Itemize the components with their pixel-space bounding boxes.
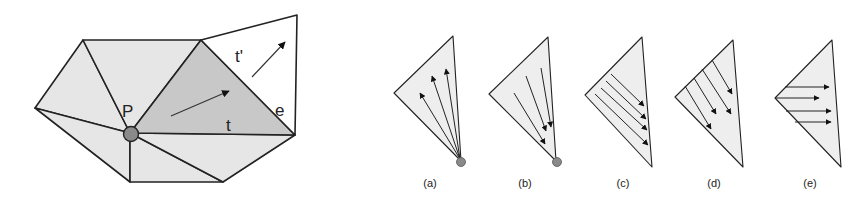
label-edge-e: e [275, 101, 284, 120]
case-c-triangle [585, 37, 652, 167]
case-e-triangle [775, 40, 841, 167]
caption-d: (d) [707, 177, 720, 189]
case-b-vertex-dot [553, 158, 562, 167]
label-triangle-t-prime: t' [235, 47, 243, 66]
caption-e: (e) [803, 177, 816, 189]
figure-canvas: P t t' e [0, 0, 865, 210]
caption-b: (b) [518, 177, 531, 189]
label-vertex-p: P [122, 102, 133, 121]
label-triangle-t: t [226, 116, 231, 135]
vertex-p-dot [124, 127, 139, 142]
triangle-fan-diagram [35, 15, 297, 182]
case-a-vertex-dot [457, 158, 466, 167]
caption-a: (a) [423, 177, 436, 189]
caption-c: (c) [617, 177, 630, 189]
